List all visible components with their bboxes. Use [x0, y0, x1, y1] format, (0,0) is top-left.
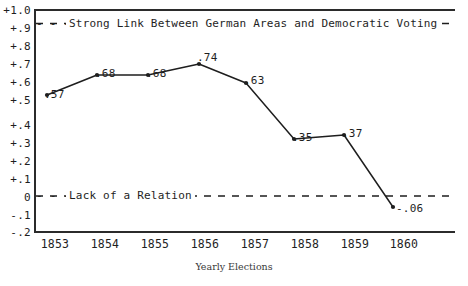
data-point-label: .57 [44, 89, 64, 100]
dash-lead-strong-link: - - - [36, 18, 70, 30]
data-point-label: .63 [244, 75, 264, 86]
data-point-label: .68 [95, 68, 115, 79]
annotation-strong-link: Strong Link Between German Areas and Dem… [66, 18, 440, 30]
data-point-label: -.06 [396, 203, 423, 214]
correlation-line-chart: +1.0 +.9 +.8 +.7 +.6 +.5 +.4 +.3 +.2 +.1… [0, 0, 468, 286]
data-point-label: .37 [342, 128, 362, 139]
data-point-label: .74 [197, 52, 217, 63]
x-axis-title: Yearly Elections [0, 261, 468, 272]
data-point-label: .35 [292, 132, 312, 143]
annotation-lack-relation: Lack of a Relation [66, 190, 195, 202]
data-point-label: .68 [146, 68, 166, 79]
x-tick-label: 1860 [374, 238, 434, 251]
data-point-marker [391, 205, 395, 209]
dash-lead-lack-relation: - - - [36, 190, 70, 202]
